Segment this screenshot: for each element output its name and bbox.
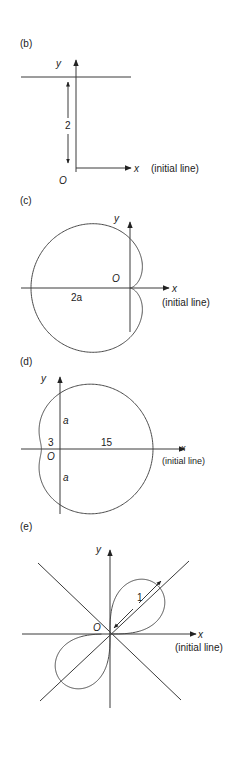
initial-line-label: (initial line) [175, 642, 223, 653]
y-axis-label: y [40, 373, 47, 384]
dimension-label: 1 [137, 592, 143, 603]
x-axis-label: x [197, 629, 204, 640]
panel-b: (b) y 2 x (initial line) O [20, 38, 199, 186]
origin-label: O [47, 451, 55, 462]
x-axis-label: x [171, 283, 178, 294]
dimension-top-label: a [63, 415, 69, 426]
panel-label-e: (e) [20, 521, 32, 532]
origin-label: O [93, 622, 101, 633]
y-axis-label: y [55, 58, 62, 69]
dimension-left-label: 3 [48, 437, 54, 448]
y-axis-label: y [113, 213, 120, 224]
panel-e: (e) x (initial line) y O 1 [20, 521, 223, 708]
origin-label: O [59, 175, 67, 186]
x-axis-label: x [133, 163, 140, 174]
dimension-label: 2 [65, 120, 71, 131]
panel-c: (c) x (initial line) y O 2a [20, 195, 210, 352]
origin-label: O [112, 273, 120, 284]
initial-line-label: (initial line) [162, 297, 210, 308]
panel-d: (d) x (initial line) y 3 15 a a O [20, 356, 205, 514]
initial-line-label: (initial line) [162, 456, 205, 466]
x-axis-label: x [180, 443, 186, 453]
polar-curves-figure: (b) y 2 x (initial line) O (c) x (initia… [0, 0, 232, 765]
panel-label-d: (d) [20, 356, 32, 367]
y-axis-label: y [95, 544, 102, 555]
dimension-arrow-in [114, 609, 133, 628]
dimension-label: 2a [71, 292, 83, 303]
dimension-bottom-label: a [63, 472, 69, 483]
tangent-line-y-eq-x [40, 561, 189, 701]
panel-label-c: (c) [20, 195, 32, 206]
initial-line-label: (initial line) [151, 163, 199, 174]
dimension-right-label: 15 [101, 437, 113, 448]
panel-label-b: (b) [20, 38, 32, 49]
